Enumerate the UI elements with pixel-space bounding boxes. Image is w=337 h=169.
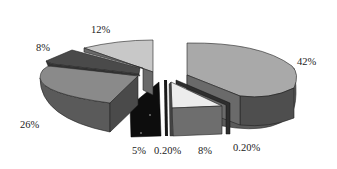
label-8-light: 8% bbox=[198, 146, 212, 157]
pie-chart bbox=[0, 0, 337, 169]
label-0.20-center: 0.20% bbox=[154, 146, 181, 157]
label-42: 42% bbox=[297, 57, 316, 68]
label-0.20-right: 0.20% bbox=[233, 143, 260, 154]
label-8-dark: 8% bbox=[36, 43, 50, 54]
slice-26 bbox=[40, 65, 138, 132]
label-5: 5% bbox=[132, 146, 146, 157]
label-26: 26% bbox=[20, 120, 39, 131]
slice-0.20-center bbox=[164, 80, 168, 136]
label-12: 12% bbox=[91, 25, 110, 36]
